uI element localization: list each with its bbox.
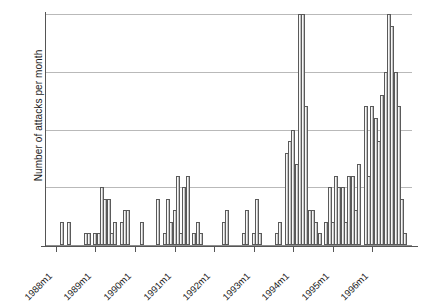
x-tick-label: 1992m1 xyxy=(180,270,212,302)
bar xyxy=(60,222,64,245)
y-axis-title: Number of attacks per month xyxy=(33,16,44,216)
x-tick-mark xyxy=(333,247,334,252)
bar xyxy=(225,210,229,245)
bar xyxy=(258,233,262,245)
plot-area: 05101520 xyxy=(46,14,412,245)
x-tick-label: 1989m1 xyxy=(62,270,94,302)
x-tick-label: 1993m1 xyxy=(220,270,252,302)
bar xyxy=(113,222,117,245)
bar xyxy=(67,222,71,245)
bar xyxy=(156,199,160,245)
bar xyxy=(403,233,407,245)
bars-container xyxy=(46,14,412,245)
x-tick-label: 1988m1 xyxy=(22,270,54,302)
bar xyxy=(126,210,130,245)
x-tick-mark xyxy=(214,247,215,252)
x-axis-spine xyxy=(41,246,418,247)
bar xyxy=(87,233,91,245)
gridline-0 xyxy=(46,245,412,246)
bar xyxy=(318,233,322,245)
x-tick-label: 1991m1 xyxy=(141,270,173,302)
x-tick-mark xyxy=(293,247,294,252)
x-tick-mark xyxy=(372,247,373,252)
x-tick-label: 1995m1 xyxy=(299,270,331,302)
x-tick-label: 1994m1 xyxy=(259,270,291,302)
bar xyxy=(357,164,361,245)
bar xyxy=(140,222,144,245)
bar xyxy=(186,176,190,245)
x-tick-mark xyxy=(56,247,57,252)
x-tick-mark xyxy=(175,247,176,252)
x-tick-mark xyxy=(254,247,255,252)
x-tick-label: 1990m1 xyxy=(101,270,133,302)
bar xyxy=(245,210,249,245)
bar xyxy=(278,222,282,245)
bar xyxy=(199,233,203,245)
x-tick-mark xyxy=(95,247,96,252)
x-tick-mark xyxy=(135,247,136,252)
bar-chart: Number of attacks per month 05101520 198… xyxy=(0,0,423,302)
x-tick-label: 1996m1 xyxy=(338,270,370,302)
